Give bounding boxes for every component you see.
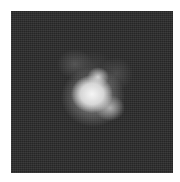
bright-blob-core (71, 75, 113, 113)
micrograph-field (11, 11, 173, 173)
